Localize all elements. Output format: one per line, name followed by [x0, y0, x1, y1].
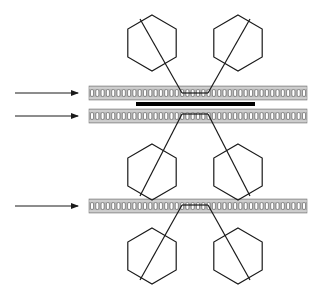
strip-cell	[297, 90, 300, 97]
strip-cell	[271, 203, 274, 210]
strip-cell	[223, 90, 226, 97]
strip-cell	[260, 203, 263, 210]
strip-cell	[292, 90, 295, 97]
strip-cell	[292, 203, 295, 210]
strip-cell	[287, 203, 290, 210]
strip-cell	[96, 90, 99, 97]
strip-cell	[228, 90, 231, 97]
strip-cell	[138, 203, 141, 210]
strip-cell	[106, 90, 109, 97]
hex-bot-left-ring-icon	[128, 228, 176, 284]
strip-cell	[144, 113, 147, 120]
strip-cell	[244, 90, 247, 97]
strip-cell	[138, 113, 141, 120]
strip-cell	[175, 203, 178, 210]
strip-cell	[234, 90, 237, 97]
strip-cell	[122, 113, 125, 120]
strip-cell	[112, 203, 115, 210]
hexagons-group	[128, 15, 262, 284]
strip-cell	[112, 90, 115, 97]
strip-cell	[250, 113, 253, 120]
strip-cell	[197, 203, 200, 210]
strip-cell	[117, 90, 120, 97]
strip-cell	[281, 113, 284, 120]
strip-cell	[250, 90, 253, 97]
strip-cell	[212, 113, 215, 120]
strip-cell	[154, 113, 157, 120]
strip-cell	[128, 90, 131, 97]
strip-cell	[281, 90, 284, 97]
strip-cell	[260, 90, 263, 97]
strip-cell	[234, 203, 237, 210]
strip-cell	[133, 90, 136, 97]
strip-cell	[170, 203, 173, 210]
strip-cell	[144, 203, 147, 210]
strip-cell	[255, 113, 258, 120]
strip-cell	[276, 203, 279, 210]
strip-cell	[165, 90, 168, 97]
strip-cell	[303, 203, 306, 210]
strip-cell	[170, 90, 173, 97]
strip-cell	[128, 203, 131, 210]
separator-bar	[136, 102, 255, 106]
strip-cell	[138, 90, 141, 97]
strip-cell	[218, 113, 221, 120]
strip-cell	[218, 90, 221, 97]
strip-cell	[91, 203, 94, 210]
diagram-canvas	[0, 0, 321, 298]
strip-cell	[255, 203, 258, 210]
strip-cell	[175, 90, 178, 97]
strip-cell	[106, 203, 109, 210]
strip-cell	[159, 113, 162, 120]
strip-cell	[228, 113, 231, 120]
strip-cell	[303, 113, 306, 120]
strip-cell	[101, 203, 104, 210]
strip-cell	[223, 113, 226, 120]
strip-cell	[244, 203, 247, 210]
strip-cell	[91, 90, 94, 97]
strip-cell	[260, 113, 263, 120]
strip-cell	[112, 113, 115, 120]
strip-cell	[276, 90, 279, 97]
strip-cell	[223, 203, 226, 210]
strip-cell	[96, 203, 99, 210]
strip-cell	[149, 203, 152, 210]
strip-cell	[117, 203, 120, 210]
strip-cell	[159, 203, 162, 210]
strip-cell	[250, 203, 253, 210]
strip-cell	[159, 90, 162, 97]
strip-cell	[239, 113, 242, 120]
strip-cell	[96, 113, 99, 120]
strip-cell	[276, 113, 279, 120]
strip-cell	[165, 113, 168, 120]
strip-cell	[106, 113, 109, 120]
strip-cell	[239, 90, 242, 97]
strip-cell	[154, 203, 157, 210]
hex-top-left-ring-icon	[128, 15, 176, 71]
strip-cell	[101, 113, 104, 120]
strip-cell	[255, 90, 258, 97]
strip-cell	[170, 113, 173, 120]
strip-cell	[165, 203, 168, 210]
strip-cell	[265, 113, 268, 120]
strip-cell	[191, 203, 194, 210]
strip-cell	[271, 113, 274, 120]
strip-cell	[117, 113, 120, 120]
strip-cell	[239, 203, 242, 210]
strip-cell	[265, 203, 268, 210]
hex-bot-right-ring-icon	[214, 228, 262, 284]
strip-cell	[228, 203, 231, 210]
molecule-strip-diagram	[0, 0, 321, 298]
strip-cell	[244, 113, 247, 120]
strip-cell	[144, 90, 147, 97]
strip-cell	[265, 90, 268, 97]
strip-cell	[133, 113, 136, 120]
strip-cell	[297, 203, 300, 210]
strip-cell	[212, 90, 215, 97]
strip-cell	[149, 90, 152, 97]
strip-cell	[101, 90, 104, 97]
strip-bottom	[89, 199, 307, 213]
strip-cell	[212, 203, 215, 210]
strip-cell	[122, 90, 125, 97]
strip-cell	[122, 203, 125, 210]
